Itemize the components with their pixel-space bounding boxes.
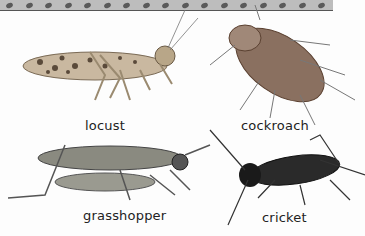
cricket-label: cricket [262, 210, 307, 225]
locust-label: locust [85, 118, 125, 133]
insect-drawings [0, 0, 365, 236]
locust-illustration [23, 10, 198, 100]
insect-illustration-panel: locust cockroach grasshopper cricket [0, 0, 365, 236]
cockroach-label: cockroach [241, 118, 309, 133]
grasshopper-illustration [8, 145, 210, 200]
grasshopper-label: grasshopper [83, 208, 166, 223]
cockroach-illustration [210, 5, 355, 125]
